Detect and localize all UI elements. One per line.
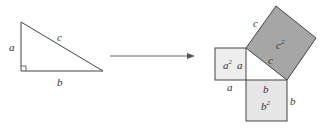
square-c-side-label-inner: c bbox=[268, 54, 273, 66]
label-leg-a: a bbox=[9, 41, 15, 53]
square-c: c2 c c bbox=[246, 6, 316, 80]
square-b-side-label-right: b bbox=[290, 95, 296, 107]
pythagorean-diagram: a b c c2 c c a2 a a b b2 b bbox=[0, 0, 329, 129]
label-hypotenuse-c: c bbox=[57, 31, 62, 43]
square-a-side-label-right: a bbox=[237, 59, 243, 71]
right-angle-marker bbox=[21, 66, 26, 71]
right-triangle: a b c bbox=[9, 22, 103, 88]
square-a: a2 a a bbox=[215, 48, 246, 93]
square-a-side-label-bottom: a bbox=[227, 81, 233, 93]
square-b-side-label-top: b bbox=[263, 83, 269, 95]
arrow-right-icon bbox=[110, 53, 195, 59]
label-leg-b: b bbox=[57, 76, 63, 88]
square-c-side-label-outer: c bbox=[253, 17, 258, 29]
square-b: b b2 b bbox=[246, 80, 296, 121]
